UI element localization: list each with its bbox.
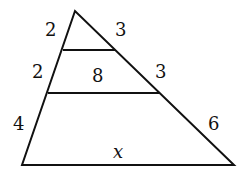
label-left-top: 2 bbox=[45, 21, 56, 39]
label-left-middle: 2 bbox=[32, 63, 43, 81]
label-right-middle: 3 bbox=[155, 63, 166, 81]
label-middle-segment: 8 bbox=[92, 67, 103, 85]
label-right-top: 3 bbox=[115, 21, 126, 39]
label-right-bottom: 6 bbox=[208, 115, 219, 133]
label-left-bottom: 4 bbox=[13, 115, 24, 133]
label-base-x: x bbox=[113, 143, 123, 161]
